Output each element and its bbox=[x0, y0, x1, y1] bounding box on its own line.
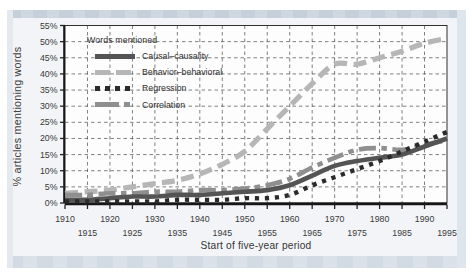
behavior-line-swatch bbox=[95, 70, 135, 75]
y-tick-label: 55% bbox=[40, 21, 58, 31]
figure: 0%5%10%15%20%25%30%35%40%45%50%55%191019… bbox=[0, 0, 472, 275]
x-tick-label: 1995 bbox=[437, 228, 457, 238]
x-tick-label: 1980 bbox=[370, 214, 390, 224]
x-tick-label: 1950 bbox=[235, 214, 255, 224]
x-tick-label: 1955 bbox=[257, 228, 277, 238]
legend-item-causal-causality: Causal–causality bbox=[95, 48, 222, 64]
y-tick-label: 15% bbox=[40, 150, 58, 160]
x-tick-label: 1920 bbox=[100, 214, 120, 224]
causal-line-swatch bbox=[95, 54, 135, 59]
y-tick-label: 0% bbox=[45, 198, 58, 208]
x-tick-label: 1940 bbox=[190, 214, 210, 224]
y-tick-label: 25% bbox=[40, 117, 58, 127]
x-tick-label: 1970 bbox=[325, 214, 345, 224]
x-tick-label: 1930 bbox=[145, 214, 165, 224]
x-tick-label: 1935 bbox=[168, 228, 188, 238]
y-tick-label: 35% bbox=[40, 85, 58, 95]
x-tick-label: 1965 bbox=[302, 228, 322, 238]
legend-label: Correlation bbox=[142, 100, 185, 110]
legend-label: Behavior–behavioral bbox=[142, 67, 222, 77]
x-tick-label: 1985 bbox=[392, 228, 412, 238]
x-tick-label: 1990 bbox=[415, 214, 435, 224]
correlation-line-swatch bbox=[95, 102, 135, 107]
x-tick-label: 1975 bbox=[347, 228, 367, 238]
y-tick-label: 5% bbox=[45, 182, 58, 192]
legend-item-behavior-behavioral: Behavior–behavioral bbox=[95, 64, 222, 80]
y-tick-label: 10% bbox=[40, 166, 58, 176]
legend-label: Regression bbox=[142, 83, 187, 93]
chart-legend: Words mentioned Causal–causality Behavio… bbox=[87, 35, 222, 113]
line-chart-canvas: 0%5%10%15%20%25%30%35%40%45%50%55%191019… bbox=[0, 0, 472, 275]
x-tick-label: 1915 bbox=[78, 228, 98, 238]
legend-items: Causal–causality Behavior–behavioral Reg… bbox=[95, 48, 222, 113]
x-axis-title: Start of five-year period bbox=[156, 240, 356, 251]
regression-line-swatch bbox=[95, 86, 135, 91]
x-tick-label: 1945 bbox=[213, 228, 233, 238]
y-tick-label: 50% bbox=[40, 37, 58, 47]
legend-item-regression: Regression bbox=[95, 80, 222, 96]
x-tick-label: 1925 bbox=[123, 228, 143, 238]
y-tick-label: 30% bbox=[40, 101, 58, 111]
x-tick-label: 1910 bbox=[55, 214, 75, 224]
legend-title: Words mentioned bbox=[87, 35, 222, 45]
legend-label: Causal–causality bbox=[142, 51, 209, 61]
legend-item-correlation: Correlation bbox=[95, 97, 222, 113]
y-tick-label: 20% bbox=[40, 133, 58, 143]
y-tick-label: 40% bbox=[40, 69, 58, 79]
y-tick-label: 45% bbox=[40, 53, 58, 63]
y-axis-title: % articles mentioning words bbox=[11, 32, 26, 202]
x-tick-label: 1960 bbox=[280, 214, 300, 224]
